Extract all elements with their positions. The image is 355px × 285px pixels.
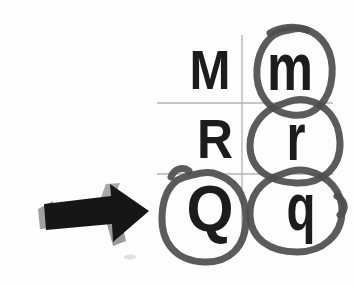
letter-selection-figure: M m R r Q q — [0, 0, 355, 285]
letter-uppercase-Q: Q — [187, 173, 234, 245]
arrow-body — [44, 184, 149, 242]
circle-around-q-pen-tail — [337, 196, 344, 215]
figure-canvas: M m R r Q q — [0, 0, 355, 285]
letter-lowercase-m: m — [267, 30, 313, 104]
letter-uppercase-R: R — [197, 107, 233, 170]
letter-uppercase-M: M — [190, 39, 231, 101]
ink-smudge — [124, 255, 136, 260]
right-arrow-icon — [38, 183, 149, 260]
